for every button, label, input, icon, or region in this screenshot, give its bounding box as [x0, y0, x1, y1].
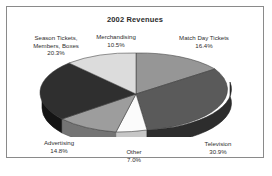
slice-label-season-tickets: Season Tickets, Members, Boxes 20.3% [19, 34, 93, 57]
slice-label-season-tickets-value: 20.3% [19, 49, 93, 57]
slice-label-match-day-tickets-name: Match Day Tickets [165, 34, 243, 42]
slice-label-advertising-name: Advertising [29, 139, 89, 147]
slice-label-advertising-value: 14.8% [29, 147, 89, 155]
slice-label-season-tickets-line1: Season Tickets, [19, 34, 93, 42]
pie-svg [37, 51, 235, 137]
slice-label-television-value: 30.9% [187, 148, 249, 156]
slice-label-other: Other 7.0% [112, 148, 156, 163]
chart-title: 2002 Revenues [7, 15, 263, 24]
slice-label-season-tickets-line2: Members, Boxes [19, 42, 93, 50]
slice-label-match-day-tickets-value: 16.4% [165, 42, 243, 50]
pie-chart-figure: 2002 Revenues [0, 0, 272, 176]
slice-label-merchandising-value: 10.5% [83, 41, 149, 49]
slice-label-advertising: Advertising 14.8% [29, 139, 89, 154]
figure-caption [7, 166, 265, 176]
slice-label-match-day-tickets: Match Day Tickets 16.4% [165, 34, 243, 49]
slice-label-other-name: Other [112, 148, 156, 156]
slice-label-merchandising-name: Merchandising [83, 33, 149, 41]
chart-frame: 2002 Revenues [6, 6, 264, 158]
pie-plot-area [37, 51, 235, 137]
slice-label-television: Television 30.9% [187, 140, 249, 155]
slice-label-other-value: 7.0% [112, 156, 156, 164]
slice-label-television-name: Television [187, 140, 249, 148]
slice-label-merchandising: Merchandising 10.5% [83, 33, 149, 48]
